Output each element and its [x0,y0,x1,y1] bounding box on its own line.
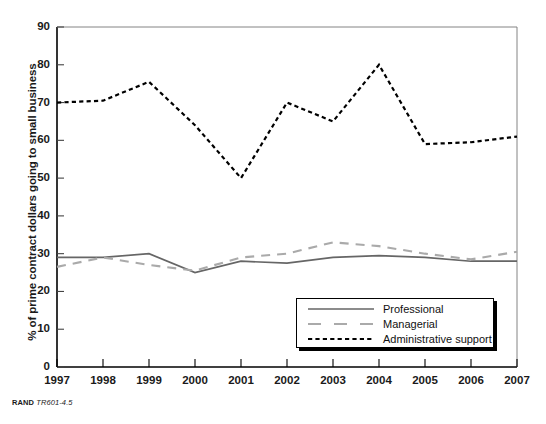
legend-swatch-administrative-support [306,333,376,345]
x-tick-label: 2002 [265,375,309,387]
x-tick-label: 2007 [495,375,539,387]
x-tick-label: 1998 [81,375,125,387]
legend-item-professional: Professional [297,301,493,317]
legend-swatch-professional [306,303,376,315]
legend-swatch-managerial [306,318,376,330]
chart-legend: Professional Managerial Administrative s… [296,298,494,348]
x-tick-label: 2001 [219,375,263,387]
legend-item-managerial: Managerial [297,316,493,332]
x-tick-label: 2006 [449,375,493,387]
x-tick-label: 2004 [357,375,401,387]
legend-item-administrative-support: Administrative support [297,331,493,347]
credit-figure-code: TR601-4.5 [36,398,72,407]
x-tick-label: 2003 [311,375,355,387]
legend-label-administrative-support: Administrative support [383,334,492,345]
figure-container: % of prime contract dollars going to sma… [0,0,546,424]
figure-credit: RAND TR601-4.5 [12,398,73,407]
x-tick-label: 2005 [403,375,447,387]
legend-label-professional: Professional [383,304,444,315]
x-tick-label: 1997 [35,375,79,387]
legend-label-managerial: Managerial [383,319,437,330]
x-tick-label: 1999 [127,375,171,387]
x-tick-label: 2000 [173,375,217,387]
x-axis-tick-labels: 1997199819992000200120022003200420052006… [0,0,546,424]
credit-publisher: RAND [12,398,34,407]
